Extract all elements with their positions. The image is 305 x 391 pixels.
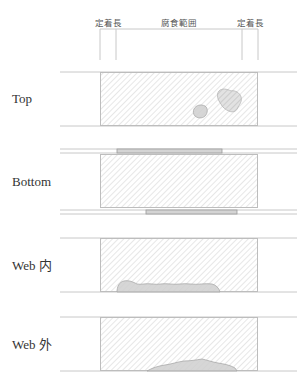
corrosion-patch-small <box>193 105 207 118</box>
dimension-label-anchor-left: 定着長 <box>95 18 122 28</box>
section-label-web-inner: Web 内 <box>12 255 52 274</box>
cover-plate-upper <box>117 149 222 153</box>
dimension-header: 定着長 腐食範囲 定着長 <box>95 18 264 60</box>
section-top <box>60 72 297 126</box>
section-label-web-outer: Web 外 <box>12 334 52 353</box>
section-bottom <box>60 149 297 214</box>
dimension-label-corrosion-range: 腐食範囲 <box>161 18 197 28</box>
section-label-bottom: Bottom <box>12 174 51 190</box>
cover-plate-lower <box>146 210 237 214</box>
corrosion-range-area <box>101 155 258 208</box>
diagram-canvas: 定着長 腐食範囲 定着長 <box>0 0 305 391</box>
dimension-label-anchor-right: 定着長 <box>237 18 264 28</box>
section-label-top: Top <box>12 91 32 107</box>
section-web-outer <box>60 317 297 371</box>
section-web-inner <box>60 238 297 292</box>
